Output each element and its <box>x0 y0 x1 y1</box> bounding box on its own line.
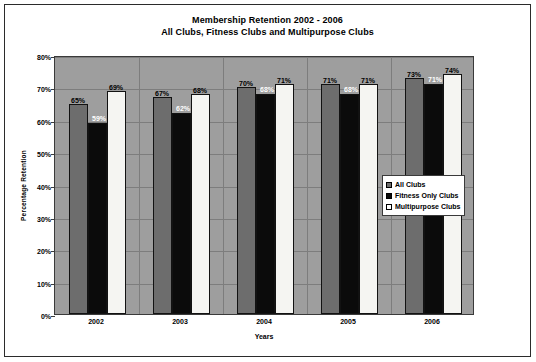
y-tick-label: 70% <box>37 86 51 93</box>
bar-2002-series-2: 69% <box>107 91 126 314</box>
legend-swatch-icon <box>386 193 392 199</box>
y-tick-mark <box>51 89 55 90</box>
y-tick-label: 40% <box>37 183 51 190</box>
legend-swatch-icon <box>386 182 392 188</box>
legend-swatch-icon <box>386 204 392 210</box>
bar-value-label: 71% <box>428 76 442 83</box>
x-tick-label-2002: 2002 <box>88 318 104 325</box>
bar-value-label: 73% <box>407 71 421 78</box>
legend-label: All Clubs <box>395 181 425 188</box>
bar-2003-series-1: 62% <box>172 113 191 314</box>
x-axis-labels: 20022003200420052006 <box>54 318 474 332</box>
legend-item-2: Multipurpose Clubs <box>386 201 460 212</box>
y-tick-mark <box>51 316 55 317</box>
bar-value-label: 65% <box>71 97 85 104</box>
chart-legend: All ClubsFitness Only ClubsMultipurpose … <box>382 175 465 216</box>
bar-value-label: 74% <box>445 67 459 74</box>
y-tick-mark <box>51 251 55 252</box>
legend-label: Fitness Only Clubs <box>395 192 458 199</box>
y-axis-title: Percentage Retention <box>17 56 29 315</box>
x-tick-label-2004: 2004 <box>256 318 272 325</box>
legend-item-1: Fitness Only Clubs <box>386 190 460 201</box>
bar-value-label: 71% <box>323 77 337 84</box>
y-tick-label: 0% <box>41 313 51 320</box>
bar-2003-series-2: 68% <box>191 94 210 314</box>
x-tick-label-2006: 2006 <box>424 318 440 325</box>
y-tick-label: 80% <box>37 54 51 61</box>
y-tick-label: 50% <box>37 151 51 158</box>
chart-title-line1: Membership Retention 2002 - 2006 <box>192 15 343 25</box>
bar-value-label: 69% <box>109 84 123 91</box>
bar-value-label: 71% <box>361 77 375 84</box>
y-tick-label: 60% <box>37 118 51 125</box>
bar-value-label: 71% <box>277 77 291 84</box>
bar-value-label: 68% <box>193 87 207 94</box>
category-separator <box>139 57 140 314</box>
bar-value-label: 67% <box>155 90 169 97</box>
x-tick-label-2003: 2003 <box>172 318 188 325</box>
y-tick-label: 30% <box>37 215 51 222</box>
bar-2005-series-1: 68% <box>340 94 359 314</box>
chart-title-line2: All Clubs, Fitness Clubs and Multipurpos… <box>5 26 530 38</box>
y-tick-mark <box>51 284 55 285</box>
gridline <box>55 57 473 58</box>
y-tick-label: 20% <box>37 248 51 255</box>
bar-2004-series-0: 70% <box>237 87 256 314</box>
chart-title: Membership Retention 2002 - 2006 All Clu… <box>5 14 530 38</box>
bar-value-label: 68% <box>260 86 274 93</box>
y-tick-mark <box>51 154 55 155</box>
bar-2004-series-1: 68% <box>256 94 275 314</box>
x-axis-title: Years <box>54 333 474 340</box>
y-tick-mark <box>51 57 55 58</box>
chart-frame: Membership Retention 2002 - 2006 All Clu… <box>4 4 531 357</box>
y-tick-mark <box>51 219 55 220</box>
bar-2003-series-0: 67% <box>153 97 172 314</box>
bar-value-label: 68% <box>344 86 358 93</box>
legend-label: Multipurpose Clubs <box>395 203 460 210</box>
y-tick-mark <box>51 122 55 123</box>
category-separator <box>307 57 308 314</box>
category-separator <box>223 57 224 314</box>
bar-value-label: 70% <box>239 80 253 87</box>
y-tick-label: 10% <box>37 280 51 287</box>
bar-2002-series-0: 65% <box>69 104 88 314</box>
bar-2002-series-1: 59% <box>88 123 107 314</box>
bar-2005-series-2: 71% <box>359 84 378 314</box>
bar-value-label: 62% <box>176 105 190 112</box>
y-tick-mark <box>51 187 55 188</box>
bar-value-label: 59% <box>92 115 106 122</box>
legend-item-0: All Clubs <box>386 179 460 190</box>
bar-2005-series-0: 71% <box>321 84 340 314</box>
x-tick-label-2005: 2005 <box>340 318 356 325</box>
bar-2004-series-2: 71% <box>275 84 294 314</box>
